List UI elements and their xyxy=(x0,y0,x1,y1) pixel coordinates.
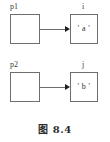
pointer-arrow-p2-to-j xyxy=(40,86,70,89)
figure-caption: 图 8.4 xyxy=(0,124,110,136)
pointer-box-p2-value xyxy=(11,73,39,101)
pointer-box-p2 xyxy=(10,72,40,102)
pointer-box-p1-value xyxy=(11,15,39,43)
char-box-i: ' a ' xyxy=(70,14,98,44)
target-label-i: i xyxy=(68,2,98,11)
pointer-arrow-p1-to-i xyxy=(40,28,70,31)
char-box-j-value: ' b ' xyxy=(71,73,97,101)
arrow-shaft xyxy=(40,87,66,88)
char-box-j: ' b ' xyxy=(70,72,98,102)
pointer-label-p1: p1 xyxy=(10,2,38,11)
diagram-row: p2 j ' b ' xyxy=(0,60,110,116)
diagram-row: p1 i ' a ' xyxy=(0,2,110,58)
char-box-i-value: ' a ' xyxy=(71,15,97,43)
target-label-j: j xyxy=(68,60,98,69)
arrow-shaft xyxy=(40,29,66,30)
figure-diagram: p1 i ' a ' p2 j ' b ' 图 8.4 xyxy=(0,0,110,142)
pointer-box-p1 xyxy=(10,14,40,44)
pointer-label-p2: p2 xyxy=(10,60,38,69)
